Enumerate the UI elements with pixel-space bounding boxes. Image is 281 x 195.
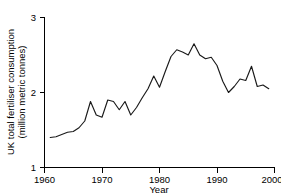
- y-axis-title-line2: (million metric tonnes): [16, 46, 27, 139]
- x-tick-label-1970: 1970: [91, 174, 112, 185]
- y-tick-label-1: 1: [31, 162, 36, 173]
- x-tick-label-1990: 1990: [206, 174, 227, 185]
- y-axis-title-line1: UK total fertiliser consumption: [5, 29, 16, 155]
- data-series-line: [50, 44, 269, 138]
- x-tick-label-1960: 1960: [34, 174, 55, 185]
- y-tick-label-2: 2: [31, 87, 36, 98]
- x-axis-title: Year: [149, 184, 168, 195]
- line-chart: 1 2 3 1960 1970 1980 1990 2000 Year UK t…: [0, 0, 281, 195]
- x-tick-label-2000: 2000: [261, 174, 281, 185]
- chart-figure: 1 2 3 1960 1970 1980 1990 2000 Year UK t…: [0, 0, 281, 195]
- y-tick-label-3: 3: [31, 12, 36, 23]
